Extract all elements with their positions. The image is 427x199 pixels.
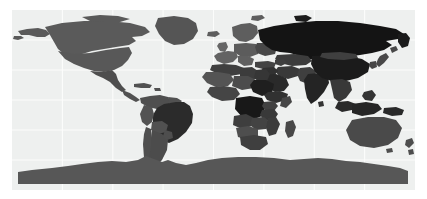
region-sri-lanka[interactable] — [318, 101, 324, 107]
figure-root — [0, 0, 427, 199]
world-map-svg[interactable] — [12, 10, 415, 190]
world-map-plot-area[interactable] — [12, 10, 415, 190]
